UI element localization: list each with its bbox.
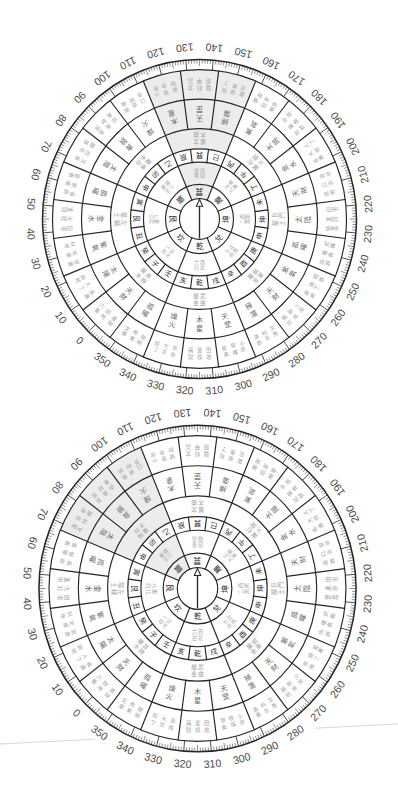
trigram-inner-note-char: 八 — [152, 583, 158, 588]
trigram-inner-note-char: 南 — [194, 168, 199, 174]
degree-label: 50 — [21, 567, 34, 580]
degree-label: 230 — [361, 594, 374, 613]
trigram-inner-note: 四綠 — [198, 535, 203, 548]
mountain-label-char: 艮 — [132, 215, 141, 222]
trigram-middle-note-text: 左輔 — [110, 589, 124, 595]
trigram-inner-note: 六白 — [194, 259, 199, 272]
luopan-sheet: 坎正北一白貪狼屬水艮東北八白左輔屬土震正東三碧祿存屬木巽東南四綠文曲屬木離正南九… — [0, 0, 398, 800]
trigram-inner-note-text: 東南 — [192, 536, 197, 548]
mountain-note-char: 明 — [203, 443, 209, 450]
trigram-middle-note: 武曲 — [200, 292, 206, 307]
star-label-char: 水 — [87, 215, 96, 222]
star-label: 天罡 — [194, 472, 201, 490]
trigram-inner-note-text: 東北 — [148, 219, 161, 224]
trigram-inner-note-char: 白 — [194, 264, 199, 271]
trigram-middle-note-text: 屬土 — [272, 220, 284, 226]
trigram-label: 乾 — [194, 611, 202, 621]
mountain-label-text: 坤 — [258, 215, 267, 222]
trigram-inner-note-text: 東南 — [194, 168, 199, 180]
star-label-char: 星 — [194, 696, 201, 705]
trigram-middle-note-char: 曲 — [200, 299, 206, 307]
mountain-label-char: 坤 — [258, 215, 267, 222]
degree-label-text: 50 — [21, 567, 34, 580]
degree-label: 140 — [203, 407, 222, 421]
trigram-middle-note-text: 武曲 — [198, 663, 204, 678]
mountain-label: 坤 — [258, 215, 267, 222]
trigram-middle-note-char: 左 — [121, 220, 128, 226]
mountain-note-text: 科甲 — [194, 443, 200, 458]
mountain-note-char: 昌 — [188, 77, 193, 84]
trigram-middle-note-text: 屬木 — [200, 131, 206, 145]
trigram-middle-note: 屬土 — [114, 212, 126, 218]
trigram-label: 坤 — [220, 584, 230, 592]
trigram-inner-note-char: 南 — [243, 583, 249, 588]
mountain-note: 田宅 — [325, 576, 337, 582]
degree-label-text: 230 — [361, 594, 374, 613]
star-label-char: 天 — [194, 481, 201, 490]
mountain-label-text: 艮 — [132, 215, 141, 222]
trigram-label-text: 乾 — [194, 611, 202, 621]
trigram-label-text: 艮 — [168, 215, 177, 223]
trigram-middle-note: 文曲 — [193, 131, 199, 146]
star-label: 太陰 — [294, 215, 311, 222]
star-label-text: 太陰 — [293, 585, 310, 592]
degree-label: 220 — [361, 195, 374, 214]
trigram-inner-note-char: 四 — [198, 542, 203, 548]
trigram-inner-note: 東北 — [148, 219, 161, 224]
trigram-inner-note: 西北 — [198, 629, 203, 642]
trigram-inner-note-text: 西南 — [237, 583, 249, 588]
mountain-note: 豐盈 — [324, 594, 337, 600]
trigram-middle-note: 屬土 — [270, 589, 283, 595]
mountain-note-char: 田 — [63, 595, 70, 600]
mountain-note-char: 昌 — [186, 443, 191, 450]
trigram-middle-note-char: 門 — [277, 582, 285, 588]
trigram-inner-note-text: 東北 — [145, 589, 158, 594]
star-label-char: 星 — [196, 324, 203, 333]
trigram-inner-note: 二黑 — [237, 589, 250, 594]
trigram-inner-note: 六白 — [192, 629, 197, 642]
lower-compass-dial: 坎正北一白貪狼屬水艮東北八白左輔屬土震正東三碧祿存屬木巽東南四綠文曲屬木離正南九… — [18, 403, 378, 773]
mountain-note-text: 豐盈 — [324, 594, 337, 600]
degree-label: 320 — [173, 757, 192, 771]
degree-label: 130 — [175, 41, 194, 55]
trigram-inner-note-char: 北 — [145, 589, 152, 594]
trigram-middle-note-text: 屬土 — [114, 212, 126, 218]
mountain-label-char: 乾 — [196, 278, 203, 287]
mountain-note-char: 聰 — [203, 450, 209, 458]
trigram-label-text: 巽 — [196, 187, 204, 196]
mountain-label-char: 艮 — [130, 585, 139, 592]
degree-label-text: 140 — [205, 41, 224, 55]
trigram-middle-note-text: 屬土 — [111, 582, 124, 588]
trigram-middle-note: 屬土 — [111, 582, 124, 588]
degree-label-text: 310 — [203, 757, 222, 771]
trigram-label: 巽 — [196, 187, 204, 196]
trigram-inner-note-char: 黑 — [244, 219, 251, 224]
trigram-middle-note: 屬土 — [272, 220, 284, 226]
mountain-label-char: 乾 — [194, 649, 201, 658]
mountain-note-char: 財 — [331, 585, 338, 591]
trigram-middle-note-text: 屬土 — [270, 589, 283, 595]
star-label: 木星 — [194, 687, 201, 705]
star-label-char: 太 — [293, 585, 302, 592]
degree-label: 40 — [21, 597, 34, 610]
trigram-inner-note-text: 西北 — [198, 629, 203, 642]
trigram-middle-note-char: 金 — [191, 670, 197, 677]
trigram-inner-note-text: 四綠 — [198, 535, 203, 548]
trigram-label: 艮 — [166, 584, 175, 592]
mountain-note-char: 盈 — [332, 594, 338, 600]
trigram-middle-note-char: 木 — [200, 131, 206, 139]
mountain-label-text: 巽 — [194, 519, 201, 528]
star-label-text: 天罡 — [194, 472, 201, 490]
trigram-middle-note-char: 輔 — [110, 589, 118, 595]
mountain-note-char: 科 — [194, 450, 200, 458]
trigram-inner-note-text: 西北 — [200, 259, 205, 272]
trigram-inner-note-char: 北 — [200, 264, 205, 271]
trigram-label-text: 巽 — [194, 556, 202, 565]
trigram-inner-note: 東北 — [145, 589, 158, 594]
trigram-inner-note-char: 北 — [148, 219, 155, 224]
star-label-char: 罡 — [196, 105, 203, 114]
trigram-middle-note: 巨門 — [270, 582, 284, 588]
trigram-middle-note-text: 巨門 — [270, 582, 284, 588]
trigram-middle-note-char: 巨 — [272, 212, 278, 218]
degree-label-text: 320 — [173, 757, 192, 771]
